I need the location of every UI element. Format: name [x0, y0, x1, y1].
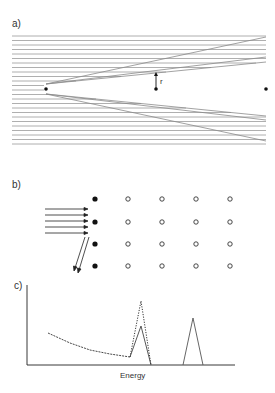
background-curve [48, 333, 130, 357]
dotted-peak [130, 301, 151, 365]
second-peak [183, 318, 203, 365]
x-axis-label: Energy [120, 371, 145, 380]
panel-c-energy-spectrum [0, 0, 275, 393]
